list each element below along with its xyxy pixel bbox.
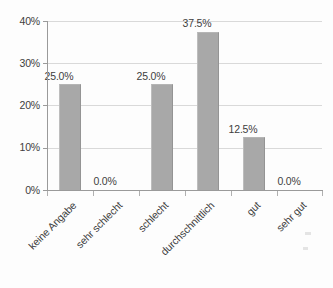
bar-keine-angabe (59, 84, 81, 190)
x-tick-mark-0 (47, 191, 48, 196)
y-axis-line (47, 21, 48, 191)
gridline-10 (47, 148, 322, 149)
x-tick-mark-1 (93, 191, 94, 196)
scan-speckle (305, 232, 311, 235)
y-tick-label-0: 0% (0, 184, 40, 196)
x-tick-mark-2 (139, 191, 140, 196)
x-tick-mark-3 (185, 191, 186, 196)
bar-value-durchschnittlich: 37.5% (174, 17, 220, 29)
gridline-20 (47, 105, 322, 106)
y-tick-label-20: 20% (0, 99, 40, 111)
y-tick-label-10: 10% (0, 141, 40, 153)
gridline-30 (47, 63, 322, 64)
bar-chart: 40% 30% 20% 10% 0% 25.0% 0.0% 25.0% 37.5… (0, 0, 333, 288)
bar-gut (243, 137, 265, 190)
x-tick-mark-6 (322, 191, 323, 196)
bar-schlecht (151, 84, 173, 190)
scan-speckle (303, 247, 308, 250)
x-tick-mark-4 (231, 191, 232, 196)
bar-value-sehr-schlecht: 0.0% (82, 175, 128, 187)
x-tick-mark-5 (277, 191, 278, 196)
plot-area (47, 21, 322, 190)
bar-value-keine-angabe: 25.0% (36, 70, 82, 82)
bar-value-schlecht: 25.0% (128, 70, 174, 82)
y-tick-label-40: 40% (0, 15, 40, 27)
bar-value-gut: 12.5% (220, 123, 266, 135)
bar-value-sehr-gut: 0.0% (266, 175, 312, 187)
y-tick-label-30: 30% (0, 57, 40, 69)
bar-durchschnittlich (197, 32, 219, 190)
